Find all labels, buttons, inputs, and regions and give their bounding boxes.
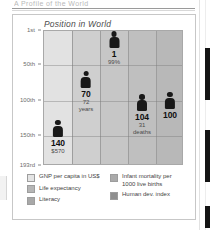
- legend-item[interactable]: Literacy: [27, 196, 102, 205]
- person-body: [53, 126, 63, 137]
- y-axis-tick-mark: [38, 30, 41, 31]
- person-icon: [164, 92, 177, 109]
- person-body: [165, 98, 175, 109]
- person-head: [111, 31, 117, 37]
- person-head: [167, 92, 173, 98]
- person-head: [55, 120, 61, 126]
- person-icon: [79, 71, 92, 88]
- legend-label: GNP per capita in US$: [39, 173, 100, 181]
- legend-swatch: [27, 174, 35, 182]
- horizontal-rule-shadow: [12, 10, 195, 11]
- person-body: [81, 77, 91, 88]
- legend-swatch: [110, 174, 118, 182]
- y-axis-tick-label: 150th: [20, 132, 35, 138]
- page-left-edge-marker: [0, 176, 7, 200]
- scrollbar-thumb[interactable]: [205, 48, 210, 100]
- legend-label: Human dev. index: [122, 191, 170, 199]
- person-head: [139, 94, 145, 100]
- data-point-value-label: 99%: [108, 59, 121, 66]
- data-point-value-label: deaths: [133, 129, 151, 136]
- data-point-rank-label: 104: [133, 112, 151, 122]
- y-axis-tick-mark: [38, 134, 41, 135]
- legend-item[interactable]: Life expectancy: [27, 185, 102, 194]
- scrollbar-thumb[interactable]: [205, 206, 210, 228]
- gridline: [44, 101, 182, 102]
- plot-area: 140$5707072years199%10431deaths100: [43, 30, 183, 165]
- legend-swatch: [110, 192, 118, 200]
- data-point-value-label: 72: [79, 99, 94, 106]
- legend-column-left: GNP per capita in US$Life expectancyLite…: [27, 173, 102, 215]
- person-body: [137, 100, 147, 111]
- y-axis-tick-mark: [38, 99, 41, 100]
- chart-figure: Position in World 1st50th100th150th193rd…: [12, 14, 196, 220]
- y-axis-tick-label: 193rd: [20, 162, 35, 168]
- data-point-value-label: years: [79, 106, 94, 113]
- y-axis: 1st50th100th150th193rd: [13, 30, 41, 165]
- chart-title: Position in World: [44, 19, 111, 29]
- clipped-heading-text: A Profile of the World: [14, 1, 192, 7]
- chart-legend: GNP per capita in US$Life expectancyLite…: [27, 173, 185, 215]
- legend-label: Infant mortality per 1000 live births: [122, 173, 185, 188]
- y-axis-tick-mark: [38, 165, 41, 166]
- legend-label: Life expectancy: [39, 185, 81, 193]
- data-point-marker: 7072years: [79, 71, 94, 113]
- legend-label: Literacy: [39, 196, 60, 204]
- data-point-rank-label: 70: [79, 89, 94, 99]
- data-point-marker: 10431deaths: [133, 94, 151, 136]
- person-head: [83, 71, 89, 77]
- vertical-scrollbar-track[interactable]: [205, 0, 213, 230]
- legend-item[interactable]: GNP per capita in US$: [27, 173, 102, 182]
- data-point-rank-label: 100: [163, 110, 177, 120]
- person-icon: [52, 120, 65, 137]
- y-axis-tick-mark: [38, 64, 41, 65]
- data-point-value-label: 31: [133, 122, 151, 129]
- horizontal-rule: [12, 8, 195, 9]
- y-axis-tick-label: 100th: [20, 97, 35, 103]
- person-icon: [135, 94, 148, 111]
- data-point-marker: 140$570: [51, 120, 65, 155]
- scrollbar-thumb[interactable]: [205, 130, 210, 182]
- data-point-marker: 199%: [108, 31, 121, 66]
- legend-swatch: [27, 197, 35, 205]
- person-icon: [108, 31, 121, 48]
- data-point-marker: 100: [163, 92, 177, 120]
- y-axis-tick-label: 50th: [23, 61, 35, 67]
- person-body: [109, 37, 119, 48]
- data-point-rank-label: 140: [51, 138, 65, 148]
- y-axis-tick-label: 1st: [27, 27, 35, 33]
- data-point-rank-label: 1: [108, 49, 121, 59]
- page-edge-rule: [199, 0, 200, 230]
- legend-column-right: Infant mortality per 1000 live birthsHum…: [110, 173, 185, 215]
- data-point-value-label: $570: [51, 148, 65, 155]
- legend-swatch: [27, 185, 35, 193]
- legend-item[interactable]: Infant mortality per 1000 live births: [110, 173, 185, 188]
- legend-item[interactable]: Human dev. index: [110, 191, 185, 200]
